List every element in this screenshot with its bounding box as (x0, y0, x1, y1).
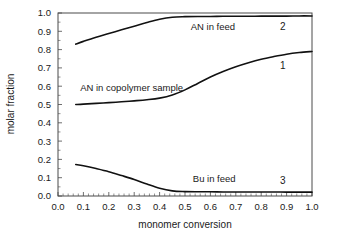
y-tick-label: 0.2 (38, 154, 51, 165)
y-tick-label: 0.3 (38, 136, 51, 147)
chart-figure: 0.00.10.20.30.40.50.60.70.80.91.0 0.00.1… (0, 0, 338, 240)
y-tick-label: 0.6 (38, 81, 51, 92)
x-tick-label: 0.1 (77, 201, 90, 212)
y-axis-title: molar fraction (5, 74, 16, 135)
y-tick-label: 1.0 (38, 7, 51, 18)
y-tick-label: 0.8 (38, 44, 51, 55)
data-series-group (76, 16, 312, 192)
series-number-label: 3 (280, 175, 286, 186)
series-text-annotation: Bu in feed (193, 173, 236, 184)
x-tick-label: 0.3 (128, 201, 141, 212)
series-text-annotation: AN in feed (191, 21, 235, 32)
x-tick-label: 0.5 (178, 201, 191, 212)
x-tick-label: 0.2 (102, 201, 115, 212)
y-tick-label: 0.4 (38, 117, 51, 128)
series-curve-1 (76, 51, 312, 104)
series-text-annotation: AN in copolymer sample (80, 82, 183, 93)
x-tick-label: 0.7 (229, 201, 242, 212)
line-chart: 0.00.10.20.30.40.50.60.70.80.91.0 0.00.1… (0, 0, 338, 240)
x-tick-label: 0.0 (51, 201, 64, 212)
x-tick-label: 0.8 (255, 201, 268, 212)
x-tick-label: 1.0 (305, 201, 318, 212)
x-tick-label: 0.4 (153, 201, 166, 212)
y-tick-label: 0.0 (38, 190, 51, 201)
x-axis-title: monomer conversion (138, 219, 231, 230)
x-axis-ticks: 0.00.10.20.30.40.50.60.70.80.91.0 (51, 192, 318, 212)
series-annotations: AN in feed2AN in copolymer sample1Bu in … (80, 21, 286, 186)
y-tick-label: 0.5 (38, 99, 51, 110)
series-number-label: 2 (280, 21, 286, 32)
x-tick-label: 0.9 (280, 201, 293, 212)
y-tick-label: 0.1 (38, 172, 51, 183)
x-tick-label: 0.6 (204, 201, 217, 212)
y-tick-label: 0.9 (38, 26, 51, 37)
series-number-label: 1 (280, 60, 286, 71)
y-tick-label: 0.7 (38, 62, 51, 73)
